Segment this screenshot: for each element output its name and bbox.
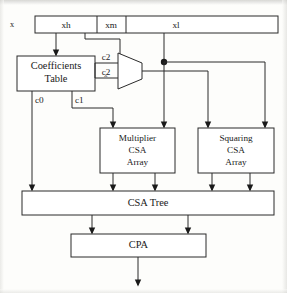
squaring-label-line3: Array [225, 157, 247, 167]
arrowhead-xl-squaring-right [262, 122, 268, 129]
operand-bar [35, 16, 278, 33]
coefficients-table-label-line1: Coefficients [31, 60, 82, 71]
arrowhead-csa-tree-out-left [89, 228, 95, 235]
wire-c1-to-multiplier: c1 [72, 91, 116, 129]
arrowhead-multiplier-out-right [152, 185, 158, 192]
block-diagram: x xh xm xl Coefficients [0, 0, 287, 293]
csa-tree-label: CSA Tree [128, 197, 169, 208]
multiplier-label-line3: Array [127, 157, 149, 167]
wire-c2-to-mux: c2 c̭2 [95, 52, 118, 78]
multiplier-label-line2: CSA [129, 145, 147, 155]
cpa-label: CPA [129, 239, 149, 250]
signal-label-c0: c0 [35, 95, 44, 105]
multiplier-label-line1: Multiplier [119, 133, 156, 143]
coefficients-table-group[interactable]: Coefficients Table [17, 56, 95, 91]
cpa-group[interactable]: CPA [71, 234, 206, 287]
wire-xl-bus [161, 33, 268, 129]
operand-bar-group: x xh xm xl [10, 16, 278, 33]
wire-mux-to-squaring [142, 71, 208, 127]
operand-field-xh: xh [61, 20, 71, 30]
arrowhead-xl-multiplier-right [161, 122, 167, 129]
arrowhead-multiplier-out-left [110, 185, 116, 192]
coefficients-table-label-line2: Table [45, 73, 68, 84]
arrowhead-cpa-result [135, 280, 141, 287]
squaring-label-line1: Squaring [219, 133, 253, 143]
signal-label-c2-tilde: c̭2 [102, 67, 111, 77]
arrowhead-squaring-out-left [209, 185, 215, 192]
figure-canvas: x xh xm xl Coefficients [0, 0, 287, 293]
arrowhead-csa-tree-out-right [185, 228, 191, 235]
squaring-csa-array-group[interactable]: Squaring CSA Array [198, 128, 274, 192]
arrowhead-mux-squaring-left [205, 122, 211, 129]
squaring-label-line2: CSA [227, 145, 245, 155]
coefficient-mux[interactable] [118, 53, 142, 89]
arrowhead-c1-multiplier [110, 122, 116, 129]
operand-field-xm: xm [105, 20, 117, 30]
signal-label-c1: c1 [75, 95, 84, 105]
signal-label-c2: c2 [102, 52, 111, 62]
operand-label-x: x [10, 20, 14, 29]
operand-field-xl: xl [172, 20, 180, 30]
wire-xh-to-coefficients [53, 33, 59, 57]
wire-c0-to-csa-tree: c0 [29, 91, 44, 192]
multiplier-csa-array-group[interactable]: Multiplier CSA Array [100, 128, 175, 192]
csa-tree-group[interactable]: CSA Tree [22, 191, 274, 235]
arrowhead-xh-coefficients [53, 50, 59, 57]
arrowhead-c0-csa-tree [29, 185, 35, 192]
arrowhead-squaring-out-right [247, 185, 253, 192]
